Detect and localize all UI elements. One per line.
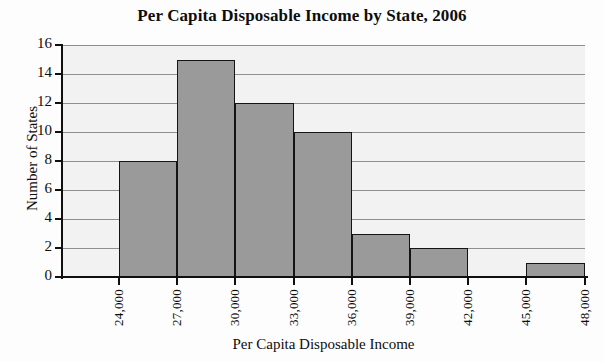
bar — [352, 234, 410, 278]
chart-title: Per Capita Disposable Income by State, 2… — [0, 6, 604, 26]
histogram-figure: Per Capita Disposable Income by State, 2… — [0, 0, 604, 362]
x-axis-tick — [409, 277, 411, 285]
bar — [119, 161, 177, 277]
x-axis-title: Per Capita Disposable Income — [62, 336, 585, 353]
x-axis-tick — [293, 277, 295, 285]
x-axis-tick-label: 30,000 — [227, 289, 243, 326]
bar — [294, 132, 352, 277]
x-axis-tick-label: 36,000 — [344, 289, 360, 326]
plot-area — [62, 45, 585, 277]
y-axis-tick — [55, 73, 62, 75]
x-axis-tick — [234, 277, 236, 285]
x-axis-tick-label: 45,000 — [518, 289, 534, 326]
bar — [410, 248, 468, 277]
x-axis-tick-label: 39,000 — [402, 289, 418, 326]
gridline — [62, 45, 585, 46]
x-axis-tick — [525, 277, 527, 285]
bar — [526, 263, 584, 278]
x-axis-tick-label: 24,000 — [111, 289, 127, 326]
bar — [177, 60, 235, 278]
x-axis-line — [61, 276, 588, 278]
y-axis-tick — [55, 218, 62, 220]
x-axis-tick — [351, 277, 353, 285]
x-axis-tick — [467, 277, 469, 285]
gridline — [62, 74, 585, 75]
y-axis-tick — [55, 131, 62, 133]
y-axis-tick — [55, 276, 62, 278]
x-axis-tick-label: 33,000 — [286, 289, 302, 326]
x-axis-tick-label: 42,000 — [460, 289, 476, 326]
y-axis-tick — [55, 189, 62, 191]
y-axis-tick — [55, 102, 62, 104]
gridline — [62, 103, 585, 104]
y-axis-tick-label: 0 — [14, 267, 52, 284]
y-axis-tick-label: 16 — [14, 35, 52, 52]
y-axis-tick — [55, 160, 62, 162]
y-axis-title: Number of States — [24, 59, 41, 259]
x-axis-tick — [118, 277, 120, 285]
y-axis-tick — [55, 247, 62, 249]
x-axis-tick — [584, 277, 586, 285]
x-axis-tick-label: 27,000 — [169, 289, 185, 326]
bar — [235, 103, 293, 277]
x-axis-tick — [176, 277, 178, 285]
x-axis-tick-label: 48,000 — [577, 289, 593, 326]
y-axis-tick — [55, 44, 62, 46]
